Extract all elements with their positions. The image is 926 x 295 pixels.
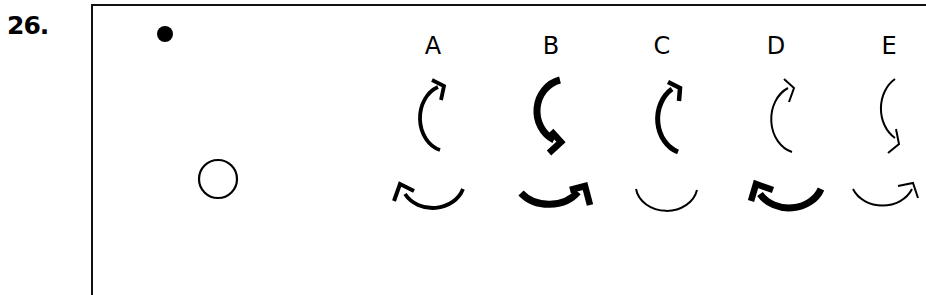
option-d-horizontal-arrow-icon <box>751 184 821 208</box>
option-d-figure[interactable] <box>751 79 821 208</box>
option-a-vertical-arrow-icon <box>420 80 444 150</box>
option-a-figure[interactable] <box>394 80 463 208</box>
option-a-horizontal-arrow-icon <box>394 184 463 208</box>
option-c-figure[interactable] <box>636 82 697 211</box>
option-b-horizontal-arrow-icon <box>521 186 590 205</box>
option-c-vertical-arrow-icon <box>658 82 680 152</box>
option-e-vertical-arrow-icon <box>881 79 899 153</box>
filled-dot-icon <box>157 26 173 42</box>
option-b-figure[interactable] <box>521 80 590 205</box>
open-circle-icon <box>199 160 237 198</box>
option-e-horizontal-arrow-icon <box>853 183 918 206</box>
option-e-figure[interactable] <box>853 79 918 206</box>
option-c-horizontal-arc-icon <box>636 189 697 211</box>
figures-canvas <box>0 0 926 295</box>
option-b-vertical-arrow-icon <box>537 80 561 153</box>
option-d-vertical-arrow-icon <box>771 79 794 152</box>
